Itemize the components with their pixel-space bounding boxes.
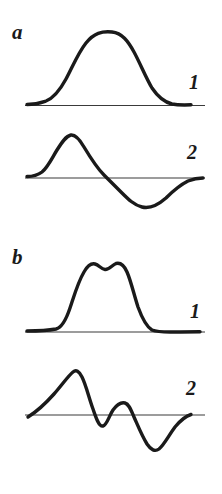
curve-label-b-2: 2 xyxy=(186,378,196,398)
panel-b-1 xyxy=(25,263,205,332)
panel-a-2 xyxy=(25,135,205,208)
panel-a-2-curve xyxy=(27,135,203,208)
curve-label-a-2: 2 xyxy=(187,142,197,162)
panel-a-1 xyxy=(25,32,205,106)
panel-a-1-curve xyxy=(27,32,191,105)
curve-label-b-1: 1 xyxy=(190,301,200,321)
figure-container: a b 1 2 1 2 xyxy=(0,0,222,494)
panel-b-1-curve xyxy=(27,263,200,332)
curve-label-a-1: 1 xyxy=(189,72,199,92)
panel-b-2-curve xyxy=(28,371,191,451)
group-label-a: a xyxy=(12,22,23,43)
group-label-b: b xyxy=(12,247,23,268)
panel-b-2 xyxy=(25,371,205,451)
